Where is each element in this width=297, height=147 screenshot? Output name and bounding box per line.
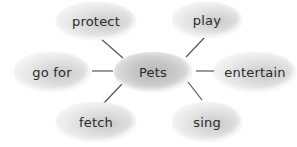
center-label: Pets bbox=[139, 65, 167, 80]
node-sing: sing bbox=[172, 102, 242, 142]
node-label: protect bbox=[72, 14, 120, 29]
word-web-diagram: protect play go for Pets entertain fetch… bbox=[0, 0, 297, 147]
node-go-for: go for bbox=[14, 52, 90, 92]
edge-pets-sing bbox=[188, 82, 202, 100]
node-pets-center: Pets bbox=[114, 52, 192, 92]
edge-pets-protect bbox=[100, 38, 123, 58]
node-fetch: fetch bbox=[56, 102, 136, 142]
node-label: entertain bbox=[224, 65, 285, 80]
edge-pets-fetch bbox=[103, 84, 122, 104]
node-entertain: entertain bbox=[214, 52, 296, 92]
node-label: sing bbox=[193, 115, 221, 130]
node-protect: protect bbox=[56, 2, 136, 40]
node-label: play bbox=[193, 13, 221, 28]
edge-pets-play bbox=[186, 37, 205, 57]
node-play: play bbox=[172, 2, 242, 38]
node-label: go for bbox=[32, 65, 71, 80]
node-label: fetch bbox=[79, 115, 113, 130]
